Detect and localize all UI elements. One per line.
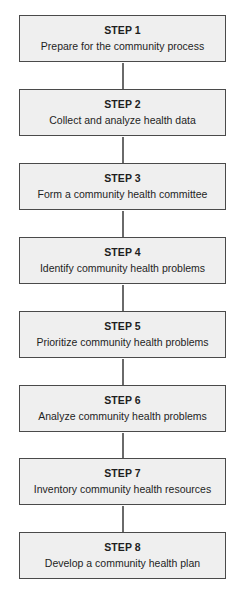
connector-7-8	[122, 506, 124, 533]
step-description: Identify community health problems	[40, 261, 205, 275]
step-box-8: STEP 8 Develop a community health plan	[19, 532, 226, 579]
step-description: Analyze community health problems	[38, 409, 207, 423]
step-box-6: STEP 6 Analyze community health problems	[19, 385, 226, 432]
step-label: STEP 7	[104, 467, 141, 480]
community-health-process-flowchart: STEP 1 Prepare for the community process…	[0, 0, 240, 593]
step-box-5: STEP 5 Prioritize community health probl…	[19, 311, 226, 358]
connector-1-2	[122, 63, 124, 90]
step-box-1: STEP 1 Prepare for the community process	[19, 15, 226, 62]
connector-6-7	[122, 433, 124, 460]
step-description: Collect and analyze health data	[49, 113, 196, 127]
step-description: Develop a community health plan	[45, 556, 200, 570]
step-box-2: STEP 2 Collect and analyze health data	[19, 89, 226, 136]
step-description: Form a community health committee	[38, 187, 208, 201]
step-label: STEP 6	[104, 394, 141, 407]
connector-2-3	[122, 137, 124, 164]
step-label: STEP 5	[104, 320, 141, 333]
step-box-4: STEP 4 Identify community health problem…	[19, 237, 226, 284]
step-label: STEP 4	[104, 246, 141, 259]
step-description: Inventory community health resources	[34, 482, 211, 496]
connector-3-4	[122, 211, 124, 238]
step-label: STEP 8	[104, 541, 141, 554]
step-box-7: STEP 7 Inventory community health resour…	[19, 458, 226, 505]
step-description: Prepare for the community process	[41, 39, 204, 53]
connector-5-6	[122, 359, 124, 386]
step-description: Prioritize community health problems	[36, 335, 208, 349]
step-label: STEP 3	[104, 172, 141, 185]
step-label: STEP 2	[104, 98, 141, 111]
connector-4-5	[122, 285, 124, 312]
step-label: STEP 1	[104, 24, 141, 37]
step-box-3: STEP 3 Form a community health committee	[19, 163, 226, 210]
